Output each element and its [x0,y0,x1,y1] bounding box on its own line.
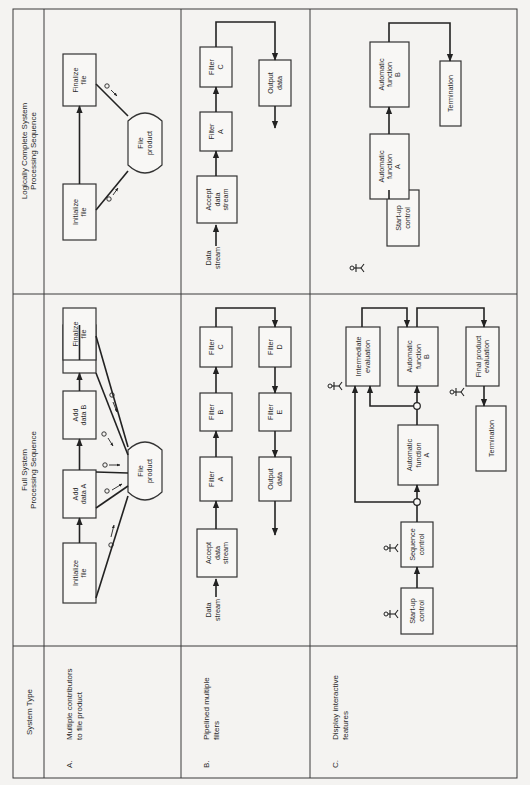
row-letter-C: C. [331,760,340,768]
box-startup-control-label: Start-upcontrol [408,598,425,624]
row-letter-B: B. [202,760,211,768]
flow-arrow-icon [112,484,122,490]
box-final-product-evaluation: Final productevaluation [466,327,499,386]
box-startup-control: Start-upcontrol [401,588,433,634]
system-type-A: Multiple contributorsto file product [65,668,84,740]
box-filter-d: FilterD [259,327,291,367]
transaction-tag-icon [103,463,107,467]
box-filter-e: FilterE [259,393,291,431]
box-termination: Termination [476,406,506,471]
box-lc-filter-a: FilterA [200,112,232,151]
system-type-B: Pipelined multiplefilters [202,677,221,740]
flow-arrow-icon [111,525,114,537]
transaction-tag-icon [107,197,111,201]
box-filter-b: FilterB [200,393,232,431]
drum-lc-file-product: Fileproduct [128,113,162,173]
box-lc-termination: Termination [440,61,461,126]
box-lc-termination-label: Termination [446,75,455,112]
operator-icon [384,610,398,618]
header-full-system: Full SystemProcessing Sequence [20,431,38,509]
box-intermediate-evaluation: Intermediateevaluation [346,327,380,386]
rotated-table-diagram: System TypeFull SystemProcessing Sequenc… [0,0,530,785]
connector-line [96,373,128,455]
operator-icon [384,544,398,552]
box-automatic-function-a: AutomaticfunctionA [398,425,438,485]
label-lc-data-stream-input: Datastream [204,247,221,269]
box-add-data-a: Adddata A [63,470,96,518]
operator-icon [450,388,464,396]
flow-arrow-icon [111,90,117,96]
connector-line [96,472,128,473]
junction-node [414,499,421,506]
box-final-product-evaluation-label: Final productevaluation [474,336,491,378]
transaction-tag-icon [102,432,106,436]
connector-line [96,84,128,116]
connector-line [96,486,128,508]
box-lc-automatic-function-b: AutomaticfunctionB [370,42,409,107]
connector-line [96,171,128,210]
header-logically-complete: Logically Complete SystemProcessing Sequ… [20,102,38,199]
box-initialize-file: Initializefile [63,543,96,603]
box-output-data: Outputdata [259,457,291,501]
box-sequence-control: Sequencecontrol [401,522,433,567]
box-lc-output-data: Outputdata [259,60,291,106]
system-type-C: Display interactivefeatures [331,675,350,740]
connector-line [96,336,128,447]
box-filter-c: FilterC [200,327,232,367]
transaction-tag-icon [105,84,109,88]
box-lc-startup-control-label: Start-upcontrol [394,205,411,231]
connector-line [417,308,484,327]
junction-node [414,403,421,410]
box-lc-filter-c: FilterC [200,47,232,87]
operator-icon [350,264,364,272]
box-automatic-function-b: AutomaticfunctionB [398,327,438,386]
connector-line [216,308,275,327]
header-system-type: System Type [25,688,34,735]
diagram-canvas: System TypeFull SystemProcessing Sequenc… [0,0,530,785]
flow-arrow-icon [108,438,113,446]
transaction-tag-icon [105,489,109,493]
box-lc-finalize-file: Finalizefile [63,54,96,106]
box-accept-data-stream: Acceptdatastream [197,529,237,577]
box-lc-accept-data-stream: Acceptdatastream [197,176,237,223]
label-data-stream-input: Datastream [204,599,221,621]
box-intermediate-evaluation-label: Intermediateevaluation [354,337,371,377]
box-lc-initialize-file: Initializefile [63,184,96,240]
connector-line [370,386,414,406]
operator-icon [328,382,342,390]
drum-file-product: Fileproduct [128,442,162,500]
box-filter-a: FilterA [200,457,232,501]
box-lc-automatic-function-a: AutomaticfunctionA [370,134,409,199]
connector-line [362,308,407,327]
row-letter-A: A. [65,760,74,768]
box-termination-label: Termination [487,420,496,457]
box-add-data-b: Adddata B [63,391,96,439]
